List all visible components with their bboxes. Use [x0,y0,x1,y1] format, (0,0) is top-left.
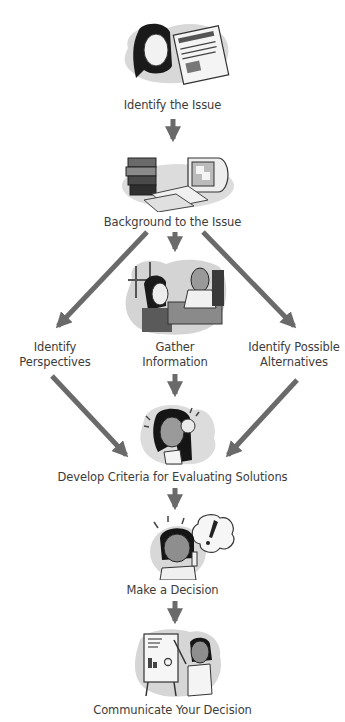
woman-with-idea-illustration [146,512,236,580]
woman-reading-newspaper-illustration [118,18,236,88]
node-identify-perspectives: Identify Perspectives [0,340,110,370]
woman-presenting-easel-illustration [132,628,224,700]
label-line: Alternatives [240,355,345,370]
label-line: Information [120,355,230,370]
label-line: Identify [0,340,110,355]
node-identify-possible-alternatives: Identify Possible Alternatives [240,340,345,370]
woman-talking-to-man-illustration [122,258,230,338]
woman-thinking-illustration [136,402,220,466]
books-and-computer-illustration [116,150,236,212]
node-background-to-the-issue: Background to the Issue [0,215,345,230]
arrow-alternatives-to-criteria [228,380,297,455]
node-communicate-your-decision: Communicate Your Decision [0,703,345,718]
node-gather-information: Gather Information [120,340,230,370]
label-line: Perspectives [0,355,110,370]
label-line: Gather [120,340,230,355]
node-identify-the-issue: Identify the Issue [0,98,345,113]
label-line: Identify Possible [240,340,345,355]
node-make-a-decision: Make a Decision [0,583,345,598]
node-develop-criteria: Develop Criteria for Evaluating Solution… [0,470,345,485]
arrow-perspectives-to-criteria [52,376,126,455]
